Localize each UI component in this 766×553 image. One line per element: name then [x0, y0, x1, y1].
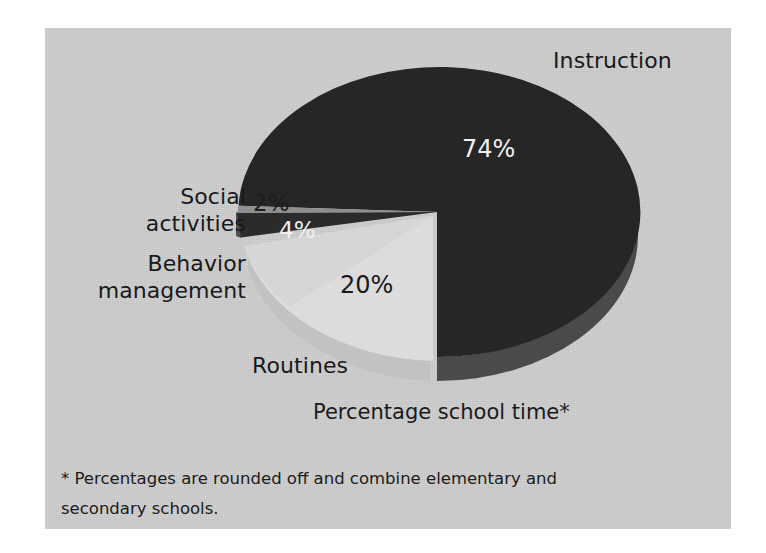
slice-value-behavior-management: 4% — [279, 217, 316, 243]
slice-value-social-activities: 2% — [253, 190, 290, 216]
chart-footnote: * Percentages are rounded off and combin… — [61, 464, 621, 524]
chart-caption: Percentage school time* — [313, 400, 570, 424]
figure-container: Instruction Social activities Behavior m… — [0, 0, 766, 553]
slice-label-instruction: Instruction — [553, 47, 672, 74]
slice-value-routines: 20% — [340, 272, 393, 298]
slice-value-instruction: 74% — [462, 136, 515, 162]
slice-label-social-activities: Social activities — [146, 183, 246, 237]
slice-label-routines: Routines — [252, 352, 348, 379]
slice-label-behavior-management: Behavior management — [98, 250, 246, 304]
